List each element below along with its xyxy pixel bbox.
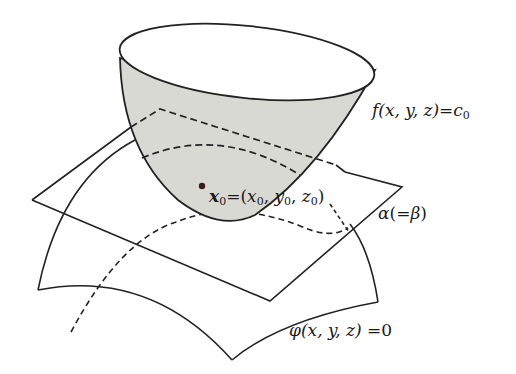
- label-point-y-sub: 0: [284, 195, 291, 208]
- label-point-eq: =: [226, 186, 240, 206]
- intersection-dashed-lower: [330, 204, 349, 232]
- constraint-surface-hidden-edge: [72, 200, 175, 326]
- label-level-surface: f(x, y, z)=c0: [372, 102, 470, 121]
- label-point-sep2: ,: [291, 186, 302, 206]
- label-point-y: y: [274, 186, 284, 206]
- label-alpha: α: [378, 203, 389, 223]
- label-f-rhs: c: [453, 100, 463, 120]
- label-constraint-surface: φ(x, y, z) =0: [289, 322, 392, 339]
- label-phi-eq: =: [362, 320, 382, 340]
- label-point-x: x: [247, 186, 257, 206]
- label-point: x0=(x0, y0, z0): [209, 188, 324, 207]
- plane-visible-edge: [336, 165, 345, 172]
- label-point-close: ): [318, 186, 325, 206]
- label-point-name: x: [209, 186, 219, 206]
- constraint-surface-dashed-edge: [71, 212, 348, 332]
- label-point-sep1: ,: [264, 186, 275, 206]
- label-plane-eq: =: [396, 203, 410, 223]
- label-beta: β: [410, 203, 420, 223]
- label-phi: φ: [289, 320, 301, 340]
- label-plane: α(=β): [378, 205, 427, 222]
- diagram-canvas: [0, 0, 516, 374]
- label-point-z-sub: 0: [311, 195, 318, 208]
- label-phi-args: (x, y, z): [301, 320, 362, 340]
- label-point-z: z: [302, 186, 311, 206]
- label-point-x-sub: 0: [257, 195, 264, 208]
- label-plane-close: ): [420, 203, 427, 223]
- point-x0: [199, 183, 205, 189]
- label-f-args: (x, y, z): [378, 100, 439, 120]
- label-f-rhs-sub: 0: [463, 109, 470, 122]
- label-f-eq: =: [439, 100, 453, 120]
- label-phi-rhs: 0: [381, 320, 392, 340]
